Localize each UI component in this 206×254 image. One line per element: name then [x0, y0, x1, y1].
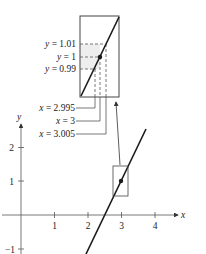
inset-label-x-2.995: x = 2.995 [38, 103, 75, 113]
leader-x-3 [76, 97, 100, 121]
diagram-canvas: y = 1.01 y = 1 y = 0.99 x = 2.995 x = 3 … [0, 0, 206, 254]
y-tick-label-1: 1 [9, 177, 14, 187]
leader-x-3.005 [76, 97, 106, 134]
main-graph: x y 1 2 3 4 2 1 −1 [2, 112, 186, 254]
y-tick-label-neg1: −1 [5, 245, 15, 254]
inset-label-x-3: x = 3 [55, 116, 75, 126]
y-tick-label-2: 2 [9, 143, 14, 153]
function-line [86, 129, 146, 254]
x-tick-label-4: 4 [153, 221, 158, 231]
y-tick-1: 1 [9, 177, 24, 187]
inset-label-y-1: y = 1 [56, 52, 76, 62]
x-tick-label-3: 3 [119, 221, 124, 231]
leader-x-2.995 [76, 97, 95, 108]
x-tick-label-1: 1 [52, 221, 57, 231]
x-tick-label-2: 2 [86, 221, 91, 231]
inset-label-y-0.99: y = 0.99 [44, 64, 76, 74]
inset-shade [80, 44, 100, 69]
zoom-arrow [116, 102, 120, 165]
x-axis-label: x [180, 210, 186, 220]
y-tick-2: 2 [9, 143, 24, 153]
inset-label-x-3.005: x = 3.005 [38, 129, 75, 139]
y-axis-label: y [16, 112, 22, 122]
point-3-1 [119, 179, 123, 183]
inset-point [98, 55, 102, 59]
inset: y = 1.01 y = 1 y = 0.99 x = 2.995 x = 3 … [38, 16, 119, 139]
inset-label-y-1.01: y = 1.01 [44, 39, 76, 49]
